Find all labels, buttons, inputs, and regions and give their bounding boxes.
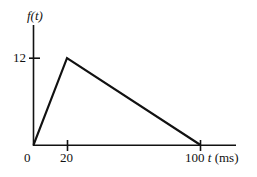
waveform-trace <box>34 58 201 145</box>
y-tick-label-12: 12 <box>13 51 26 64</box>
x-tick-label-20: 20 <box>60 151 73 164</box>
triangular-pulse-figure: f(t) 12 0 20 100 t (ms) <box>0 0 257 177</box>
x-tick-label-0: 0 <box>24 151 31 164</box>
x-axis-unit-label: (ms) <box>215 150 239 165</box>
x-axis-end-labels: 100 t (ms) <box>185 151 238 164</box>
y-axis-label: f(t) <box>27 9 43 22</box>
x-tick-label-100: 100 <box>185 150 205 165</box>
